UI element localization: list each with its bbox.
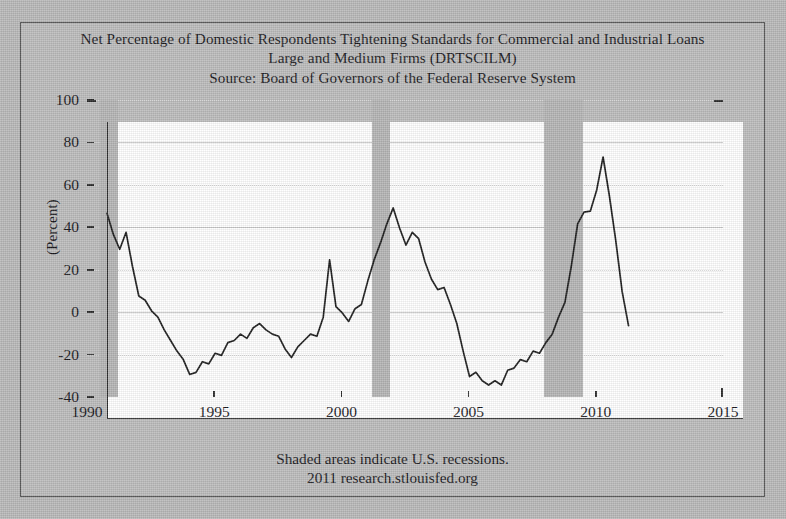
y-axis-tick-label: 100 <box>31 91 79 109</box>
y-axis-tick-mark <box>87 226 94 228</box>
x-axis-tick-label: 2010 <box>566 403 626 421</box>
axis-corner-tick <box>714 100 723 102</box>
y-axis-tick-mark <box>87 99 94 101</box>
x-axis-tick-mark <box>595 391 597 397</box>
x-axis-tick-mark <box>341 391 343 397</box>
y-axis-tick-label: 20 <box>31 261 79 279</box>
y-axis-tick-label: 0 <box>31 303 79 321</box>
y-axis-tick-mark <box>87 184 94 186</box>
axis-corner-tick <box>721 388 723 397</box>
x-axis-tick-label: 1995 <box>184 403 244 421</box>
x-axis-tick-label: 1990 <box>57 403 117 421</box>
x-axis-tick-mark <box>213 391 215 397</box>
y-axis-tick-mark <box>87 311 94 313</box>
x-axis-tick-label: 2015 <box>693 403 753 421</box>
x-axis-tick-label: 2005 <box>439 403 499 421</box>
tick-layer: 100806040200-20-401990199520002005201020… <box>21 23 764 496</box>
y-axis-tick-mark <box>87 354 94 356</box>
y-axis-tick-label: 80 <box>31 133 79 151</box>
x-axis-tick-label: 2000 <box>311 403 371 421</box>
y-axis-tick-mark <box>87 142 94 144</box>
y-axis-tick-mark <box>87 269 94 271</box>
y-axis-tick-label: 40 <box>31 218 79 236</box>
figure-canvas: Net Percentage of Domestic Respondents T… <box>0 0 786 519</box>
figure-frame: Net Percentage of Domestic Respondents T… <box>20 22 765 497</box>
x-axis-tick-mark <box>468 391 470 397</box>
y-axis-tick-label: -20 <box>31 346 79 364</box>
y-axis-tick-mark <box>87 396 94 398</box>
y-axis-tick-label: 60 <box>31 176 79 194</box>
